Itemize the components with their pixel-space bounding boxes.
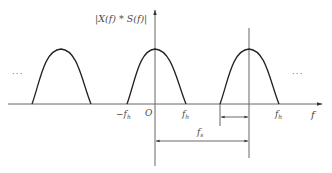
- y-axis-label: |X(f) * S(f)|: [95, 13, 147, 25]
- pulse-baseband: [127, 49, 186, 104]
- neg-fh-label: −fh: [116, 109, 131, 120]
- ellipsis-left: ···: [12, 69, 24, 79]
- spectrum-diagram: |X(f) * S(f)| ··· ··· −fh O fh fh f fs: [0, 0, 332, 173]
- ellipsis-right: ···: [292, 69, 304, 79]
- origin-label: O: [145, 108, 153, 118]
- fs-label: fs: [196, 127, 203, 138]
- x-axis-label: f: [310, 109, 317, 120]
- fh-right-label: fh: [274, 109, 282, 120]
- fh-label: fh: [181, 109, 189, 120]
- pulse-left-replica: [32, 49, 91, 104]
